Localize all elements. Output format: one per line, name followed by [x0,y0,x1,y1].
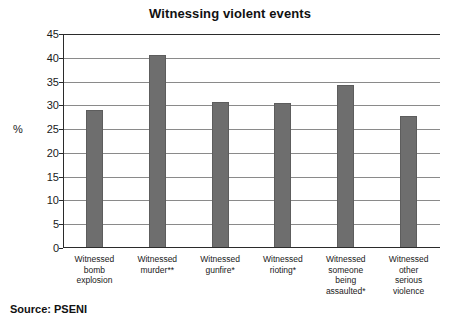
x-tick-label: Witnessedgunfire* [184,254,256,275]
x-tick-label: Witnessedrioting* [247,254,319,275]
x-tick-label-line: Witnessed [373,254,445,265]
y-tick-label-30: 30 [19,99,59,111]
gridline-10 [63,200,440,201]
gridline-5 [63,224,440,225]
x-tick-label: Witnessedbombexplosion [58,254,130,286]
plot-background [63,34,440,248]
gridline-25 [63,129,440,130]
x-axis-line [63,247,440,248]
x-tick-label-line: Witnessed [247,254,319,265]
y-tick-label-10: 10 [19,194,59,206]
y-axis-tick-labels: 454035302520151050 [13,34,59,248]
x-tick-label-line: someone [310,265,382,276]
gridline-20 [63,153,440,154]
bar [86,110,103,248]
y-tick-label-45: 45 [19,28,59,40]
x-tick-label-line: Witnessed [121,254,193,265]
x-tick-label-line: bomb [58,265,130,276]
gridline-40 [63,58,440,59]
bar [274,103,291,248]
y-tick-label-0: 0 [19,242,59,254]
x-tick-label: Witnessedotherseriousviolence [373,254,445,296]
x-tick-label-line: being [310,275,382,286]
y-tick-mark-0 [59,248,63,249]
plot-area [63,34,440,248]
y-tick-label-5: 5 [19,218,59,230]
y-tick-label-25: 25 [19,123,59,135]
gridline-45 [63,34,440,35]
x-tick-label: Witnessedmurder** [121,254,193,275]
x-tick-label-line: other [373,265,445,276]
gridline-30 [63,105,440,106]
gridline-35 [63,82,440,83]
source-note: Source: PSENI [10,303,87,315]
x-tick-label-line: murder** [121,265,193,276]
x-tick-label-line: violence [373,286,445,297]
x-tick-label-line: assaulted* [310,286,382,297]
y-tick-label-40: 40 [19,52,59,64]
x-tick-label-line: rioting* [247,265,319,276]
x-tick-label-line: gunfire* [184,265,256,276]
x-tick-label-line: serious [373,275,445,286]
bar [212,102,229,248]
y-axis-line [63,34,64,248]
x-tick-label-line: Witnessed [184,254,256,265]
x-tick-label-line: Witnessed [310,254,382,265]
x-tick-label-line: Witnessed [58,254,130,265]
y-tick-label-20: 20 [19,147,59,159]
bar [400,116,417,248]
y-tick-label-15: 15 [19,171,59,183]
chart-container: Witnessing violent events % 454035302520… [0,0,460,329]
x-tick-label: Witnessedsomeonebeingassaulted* [310,254,382,296]
y-tick-label-35: 35 [19,76,59,88]
x-axis-tick-labels: WitnessedbombexplosionWitnessedmurder**W… [63,254,440,304]
gridline-15 [63,177,440,178]
bar [149,55,166,248]
bar [337,85,354,248]
chart-title: Witnessing violent events [0,6,460,21]
x-tick-label-line: explosion [58,275,130,286]
